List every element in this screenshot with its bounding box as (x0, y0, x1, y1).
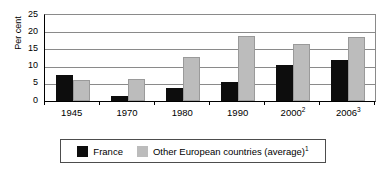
y-axis-tick-labels: 0510152025 (18, 8, 38, 106)
bar-other-european (293, 44, 310, 101)
x-axis-tick-label-text: 1980 (172, 107, 193, 118)
x-axis-tick-mark (44, 101, 45, 105)
x-axis-tick-label: 1945 (44, 106, 99, 120)
y-axis-tick-label: 5 (18, 77, 38, 88)
legend-label-text: France (93, 146, 123, 157)
bar-france (166, 88, 183, 101)
x-axis-tick-mark (319, 101, 320, 105)
x-axis-tick-label-footnote: 2 (302, 106, 306, 113)
bar-groups (45, 15, 375, 101)
y-axis-tick-label: 25 (18, 9, 38, 20)
legend-swatch-icon (77, 146, 88, 157)
bar-other-european (128, 79, 145, 101)
x-axis-tick-mark (99, 101, 100, 105)
chart-legend: FranceOther European countries (average)… (60, 139, 326, 163)
x-axis-tick-label: 20002 (265, 106, 320, 120)
x-axis-tick-label: 1970 (99, 106, 154, 120)
y-axis-tick-label: 0 (18, 95, 38, 106)
x-axis-tick-label-text: 2000 (281, 107, 302, 118)
x-axis-tick-label: 20063 (321, 106, 376, 120)
bar-chart-figure: Per cent 0510152025 19451970198019902000… (0, 0, 386, 176)
x-axis-tick-label-footnote: 3 (357, 106, 361, 113)
legend-swatch-icon (137, 146, 148, 157)
legend-label: Other European countries (average)1 (153, 146, 309, 157)
bar-other-european (238, 36, 255, 101)
bar-other-european (348, 37, 365, 101)
plot-area (44, 14, 376, 102)
x-axis-tick-mark (154, 101, 155, 105)
x-axis-ticks (44, 101, 376, 105)
bar-france (56, 75, 73, 101)
legend-label: France (93, 146, 123, 157)
y-axis-tick-label: 15 (18, 43, 38, 54)
legend-entry: Other European countries (average)1 (137, 146, 309, 157)
x-axis-tick-mark (264, 101, 265, 105)
bar-other-european (73, 80, 90, 101)
bar-group (320, 15, 375, 101)
legend-label-footnote: 1 (305, 144, 309, 151)
x-axis-tick-mark (374, 101, 375, 105)
bar-group (100, 15, 155, 101)
bar-france (276, 65, 293, 101)
y-axis-tick-label: 20 (18, 26, 38, 37)
x-axis-tick-label-text: 1990 (227, 107, 248, 118)
bar-france (331, 60, 348, 101)
bar-group (45, 15, 100, 101)
x-axis-tick-label: 1980 (155, 106, 210, 120)
x-axis-tick-label-text: 1970 (116, 107, 137, 118)
bar-france (221, 82, 238, 101)
x-axis-tick-label-text: 1945 (61, 107, 82, 118)
y-axis-tick-label: 10 (18, 60, 38, 71)
legend-label-text: Other European countries (average) (153, 146, 305, 157)
bar-group (210, 15, 265, 101)
legend-entry: France (77, 146, 123, 157)
x-axis-tick-label: 1990 (210, 106, 265, 120)
bar-group (265, 15, 320, 101)
bar-other-european (183, 57, 200, 101)
x-axis-tick-mark (209, 101, 210, 105)
bar-group (155, 15, 210, 101)
x-axis-tick-label-text: 2006 (336, 107, 357, 118)
x-axis-tick-labels: 19451970198019902000220063 (44, 106, 376, 120)
